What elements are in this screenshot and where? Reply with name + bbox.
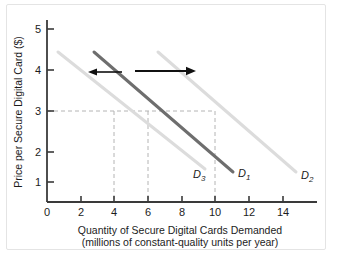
y-axis-ticks (47, 29, 54, 182)
x-axis-title-line2: (millions of constant-quality units per … (82, 236, 279, 248)
curve-label-d3-base: D (193, 168, 201, 180)
y-tick-label-4: 4 (35, 64, 41, 76)
y-axis-title: Price per Secure Digital Card ($) (12, 36, 24, 188)
y-axis-tick-labels: 5 4 3 2 1 (35, 23, 41, 188)
y-tick-label-2: 2 (35, 146, 41, 158)
y-tick-label-1: 1 (35, 176, 41, 188)
x-tick-label-2: 2 (78, 206, 84, 218)
curve-label-d3-sub: 3 (201, 174, 206, 183)
x-origin-label: 0 (44, 206, 50, 218)
curve-label-d1-base: D (238, 167, 246, 179)
curve-labels: D3 D1 D2 (193, 167, 314, 184)
demand-curve-chart: 5 4 3 2 1 0 2 4 6 8 10 12 14 (0, 0, 339, 259)
curve-label-d1-sub: 1 (246, 173, 250, 182)
x-axis-title-line1: Quantity of Secure Digital Cards Demande… (78, 224, 282, 236)
curve-label-d2: D2 (301, 169, 314, 184)
curve-label-d1: D1 (238, 167, 250, 182)
x-tick-label-10: 10 (209, 206, 221, 218)
x-tick-label-4: 4 (111, 206, 117, 218)
y-tick-label-3: 3 (35, 105, 41, 117)
leftward-shift-arrowhead (88, 68, 97, 75)
rightward-shift-arrowhead (186, 67, 196, 75)
x-tick-label-6: 6 (145, 206, 151, 218)
x-axis-tick-labels: 0 2 4 6 8 10 12 14 (44, 206, 289, 218)
curve-label-d3: D3 (193, 168, 206, 183)
curve-label-d2-sub: 2 (308, 175, 314, 184)
shift-arrows (88, 67, 196, 76)
figure-container: 5 4 3 2 1 0 2 4 6 8 10 12 14 (0, 0, 339, 259)
x-tick-label-14: 14 (277, 206, 289, 218)
x-tick-label-8: 8 (179, 206, 185, 218)
y-tick-label-5: 5 (35, 23, 41, 35)
x-tick-label-12: 12 (243, 206, 255, 218)
curve-label-d2-base: D (301, 169, 309, 181)
